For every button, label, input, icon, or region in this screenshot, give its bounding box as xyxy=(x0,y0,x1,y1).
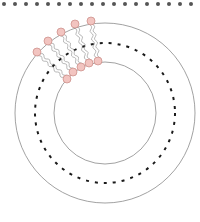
lipid-head xyxy=(71,20,79,28)
dot xyxy=(167,2,171,6)
dot xyxy=(134,2,138,6)
dot xyxy=(123,2,127,6)
lipid-head xyxy=(77,63,85,71)
dot xyxy=(189,2,193,6)
lipid-head xyxy=(87,17,95,25)
lipid-head xyxy=(63,75,71,83)
lipid-head xyxy=(44,37,52,45)
dot xyxy=(24,2,28,6)
lipid-head xyxy=(85,59,93,67)
lipid-head xyxy=(33,48,41,56)
dot xyxy=(112,2,116,6)
lipid-tails xyxy=(36,21,100,80)
dot xyxy=(90,2,94,6)
lipid-head xyxy=(57,28,65,36)
dot xyxy=(35,2,39,6)
outer-membrane-boundary xyxy=(15,23,195,203)
dot xyxy=(2,2,6,6)
liposome-diagram xyxy=(0,0,200,222)
bilayer-midplane-dashed xyxy=(35,43,175,183)
dot xyxy=(101,2,105,6)
dot xyxy=(68,2,72,6)
lipid-head xyxy=(94,57,102,65)
dot xyxy=(145,2,149,6)
dot xyxy=(79,2,83,6)
dot xyxy=(13,2,17,6)
lipid-head xyxy=(69,68,77,76)
top-dotted-line xyxy=(2,2,193,6)
dot xyxy=(178,2,182,6)
dot xyxy=(57,2,61,6)
dot xyxy=(156,2,160,6)
dot xyxy=(46,2,50,6)
